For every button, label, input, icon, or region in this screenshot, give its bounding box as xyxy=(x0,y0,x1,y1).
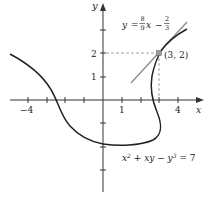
tangent-equation: y = 8 9 x − 2 3 xyxy=(121,15,170,32)
svg-text:y: y xyxy=(121,20,128,30)
y-axis-arrow-icon xyxy=(100,3,106,11)
curve-right-branch xyxy=(103,29,187,145)
y-tick-label-1: 1 xyxy=(91,72,97,82)
point-label: (3, 2) xyxy=(164,50,188,60)
svg-text:8: 8 xyxy=(141,15,145,23)
svg-text:=: = xyxy=(131,20,139,30)
curve-equation: x2 + xy − y3 = 7 xyxy=(122,152,196,163)
axes xyxy=(10,3,204,192)
x-axis-label: x xyxy=(196,105,201,115)
x-tick-label-4: 4 xyxy=(175,105,181,115)
svg-text:−: − xyxy=(155,20,163,30)
svg-text:3: 3 xyxy=(165,24,169,32)
y-axis-label: y xyxy=(91,0,98,11)
curve-left-branch xyxy=(10,54,103,144)
x-tick-label-neg4: −4 xyxy=(20,105,34,115)
y-tick-label-2: 2 xyxy=(91,49,97,59)
x-axis-arrow-icon xyxy=(196,97,204,103)
chart-canvas: −4 1 4 1 2 x y (3, 2) y = 8 9 x − 2 3 x2… xyxy=(0,0,208,199)
svg-text:9: 9 xyxy=(141,24,145,32)
svg-text:2: 2 xyxy=(165,15,169,23)
x-tick-label-1: 1 xyxy=(119,105,125,115)
point-marker xyxy=(157,51,162,56)
svg-text:x: x xyxy=(146,20,151,30)
